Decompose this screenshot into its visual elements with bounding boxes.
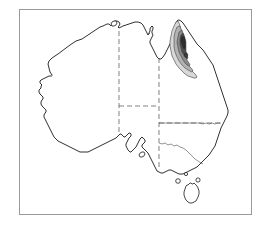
mainland-australia-outline [39, 20, 228, 174]
bass-strait-islet [184, 172, 187, 175]
kangaroo-island-outline [139, 152, 145, 157]
flinders-island-outline [196, 178, 200, 182]
distribution-point-marker [184, 53, 188, 57]
tasmania-outline [184, 183, 199, 203]
king-island-outline [176, 179, 181, 184]
melville-island-outline [111, 21, 117, 26]
map-figure [0, 0, 270, 228]
australia-map-svg [0, 0, 270, 228]
